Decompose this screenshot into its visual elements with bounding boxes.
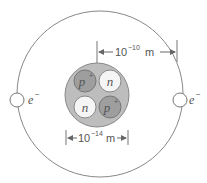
electron-symbol: e	[28, 93, 34, 107]
proton-symbol: p	[103, 100, 111, 115]
proton-2: p +	[99, 96, 121, 118]
neutron-symbol: n	[107, 74, 114, 89]
electron-charge: −	[196, 90, 201, 99]
nucleus	[65, 63, 129, 127]
atom-radius-base: 10	[115, 46, 127, 58]
proton-charge: +	[89, 72, 93, 79]
electron-right: e −	[173, 90, 201, 107]
electron-symbol: e	[189, 93, 195, 107]
proton-1: p +	[74, 70, 96, 92]
atom-radius-unit: m	[145, 46, 154, 58]
nucleus-diameter-unit: m	[106, 132, 115, 144]
proton-symbol: p	[78, 74, 86, 89]
proton-charge: +	[114, 98, 118, 105]
atom-radius-dimension: 10 −10 m	[97, 40, 177, 63]
atom-radius-exponent: −10	[128, 44, 140, 51]
neutron-2: n	[74, 96, 96, 118]
nucleus-diameter-exponent: −14	[91, 130, 103, 137]
nucleus-diameter-base: 10	[78, 132, 90, 144]
neutron-1: n	[99, 70, 121, 92]
electron-left: e −	[10, 90, 40, 107]
neutron-symbol: n	[82, 100, 89, 115]
atom-diagram: p + n n p + 10 −10 m 10 −14 m e −	[0, 0, 207, 183]
electron-charge: −	[35, 90, 40, 99]
nucleus-diameter-dimension: 10 −14 m	[66, 130, 128, 145]
